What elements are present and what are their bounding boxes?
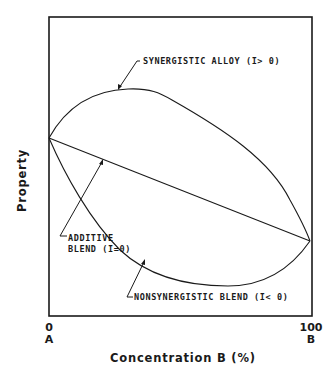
y-axis-title: Property — [15, 152, 29, 212]
x-tick-0-component: A — [42, 333, 56, 346]
nonsynergistic-blend-curve — [49, 138, 310, 286]
additive-blend-line — [49, 138, 310, 241]
synergistic-alloy-label: SYNERGISTIC ALLOY (I> 0) — [143, 56, 280, 67]
additive-blend-label-line2: BLEND (I=0) — [68, 244, 131, 255]
x-axis-title: Concentration B (%) — [110, 351, 256, 365]
synergistic-pointer-arrow-icon — [118, 61, 140, 90]
additive-pointer-arrow-icon — [60, 159, 103, 236]
additive-blend-label-line1: ADDITIVE — [68, 233, 114, 244]
synergistic-alloy-curve — [49, 89, 310, 241]
x-tick-100-component: B — [298, 333, 324, 346]
nonsynergistic-blend-label: NONSYNERGISTIC BLEND (I< 0) — [134, 292, 288, 303]
